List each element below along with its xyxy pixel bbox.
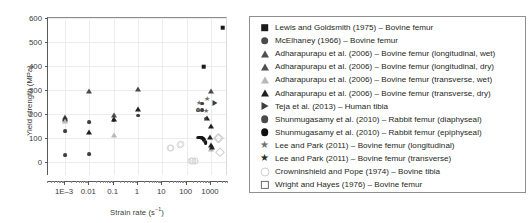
x-gridline [114, 18, 115, 175]
x-minor-tick [217, 181, 218, 183]
y-axis-label: Yield strength (MPa) [25, 31, 34, 171]
legend-item[interactable]: Wright and Hayes (1976) – Bovine femur [258, 178, 525, 191]
x-axis-label: Strain rate (s−1) [47, 206, 227, 217]
data-point [63, 130, 67, 134]
x-gridline [187, 18, 188, 175]
x-tick-label: 10 [157, 187, 166, 196]
data-point [204, 117, 208, 121]
y-gridline [48, 18, 226, 19]
x-minor-tick [96, 181, 97, 183]
x-minor-tick [227, 181, 228, 183]
x-tick-label: 100 [179, 187, 192, 196]
x-minor-tick [103, 181, 104, 183]
x-minor-tick [185, 181, 186, 183]
x-minor-tick [154, 181, 155, 183]
legend-item[interactable]: Lewis and Goldsmith (1975) – Bovine femu… [258, 21, 525, 34]
y-gridline [48, 66, 226, 67]
x-gridline [65, 18, 66, 175]
legend-marker-triangle-light [258, 73, 271, 86]
data-point [111, 132, 117, 137]
legend-item-label: Shunmugasamy et al. (2010) – Rabbit femu… [275, 115, 482, 124]
legend-item-label: Wright and Hayes (1976) – Bovine femur [275, 180, 422, 189]
y-tick-label: 300 [29, 85, 42, 94]
data-point [87, 153, 91, 157]
legend-item[interactable]: Adharapurapu et al. (2006) – Bovine femu… [258, 73, 525, 86]
x-minor-tick [105, 181, 106, 183]
data-point [192, 158, 199, 165]
x-minor-tick [79, 181, 80, 183]
x-tick-mark [137, 181, 138, 185]
x-minor-tick [71, 181, 72, 183]
data-point [220, 25, 225, 30]
x-minor-tick [209, 181, 210, 183]
legend-item[interactable]: Shunmugasamy et al. (2010) – Rabbit femu… [258, 113, 525, 126]
y-tick-label: 400 [29, 61, 42, 70]
legend-item[interactable]: Crowninshield and Pope (1974) – Bovine t… [258, 165, 525, 178]
y-tick-mark [45, 66, 49, 67]
x-gridline [138, 18, 139, 175]
legend-item[interactable]: Shunmugasamy et al. (2010) – Rabbit femu… [258, 126, 525, 139]
x-minor-tick [100, 181, 101, 183]
data-point [135, 107, 141, 112]
legend-item[interactable]: ★Lee and Park (2011) – Bovine femur (tra… [258, 152, 525, 165]
legend-item-label: Shunmugasamy et al. (2010) – Rabbit femu… [275, 128, 482, 137]
data-point: ★ [202, 106, 209, 113]
data-point: ★ [196, 98, 203, 105]
x-tick-mark [161, 181, 162, 185]
x-minor-tick [176, 181, 177, 183]
legend-marker-star-light: ★ [258, 139, 271, 152]
legend-marker-open-diamond [258, 178, 271, 191]
legend-marker-circle-dark [258, 126, 271, 139]
legend-item[interactable]: ★Lee and Park (2011) – Bovine femur (lon… [258, 139, 525, 152]
x-minor-tick [169, 181, 170, 183]
chart-figure-root: Yield strength (MPa) Strain rate (s−1) 0… [0, 0, 532, 223]
x-tick-mark [210, 181, 211, 185]
data-point [86, 129, 92, 134]
data-point [208, 124, 214, 129]
y-tick-mark [45, 90, 49, 91]
y-tick-mark [45, 18, 49, 19]
x-minor-tick [54, 181, 55, 183]
x-minor-tick [225, 181, 226, 183]
legend-item-label: Adharapurapu et al. (2006) – Bovine femu… [275, 75, 492, 84]
legend-marker-circle-grey [258, 113, 271, 126]
x-minor-tick [203, 181, 204, 183]
data-point [136, 114, 140, 118]
data-point [87, 120, 91, 124]
legend-item-label: Teja et al. (2013) – Human tibia [275, 102, 388, 111]
legend-item-label: Lee and Park (2011) – Bovine femur (long… [275, 141, 454, 150]
x-minor-tick [144, 181, 145, 183]
x-minor-tick [222, 181, 223, 183]
chart-legend: Lewis and Goldsmith (1975) – Bovine femu… [249, 16, 526, 193]
legend-item[interactable]: Teja et al. (2013) – Human tibia [258, 100, 525, 113]
y-tick-label: 200 [29, 109, 42, 118]
legend-marker-triangle-right [258, 100, 271, 113]
x-minor-tick [81, 181, 82, 183]
data-point [204, 141, 208, 145]
x-minor-tick [124, 181, 125, 183]
legend-item[interactable]: Adharapurapu et al. (2006) – Bovine femu… [258, 47, 525, 60]
x-tick-label: 1000 [201, 187, 218, 196]
x-minor-tick [63, 181, 64, 183]
x-tick-mark [186, 181, 187, 185]
legend-marker-star-dark: ★ [258, 152, 271, 165]
x-minor-tick [57, 181, 58, 183]
legend-item-label: Adharapurapu et al. (2006) – Bovine femu… [275, 62, 494, 71]
x-tick-label: 1 [135, 187, 139, 196]
legend-item-label: McElhaney (1966) – Bovine femur [275, 36, 398, 45]
y-gridline [48, 162, 226, 163]
data-point [216, 147, 225, 156]
x-minor-tick [178, 181, 179, 183]
legend-item[interactable]: McElhaney (1966) – Bovine femur [258, 34, 525, 47]
y-tick-label: 500 [29, 37, 42, 46]
x-minor-tick [127, 181, 128, 183]
y-gridline [48, 42, 226, 43]
legend-item[interactable]: Adharapurapu et al. (2006) – Bovine femu… [258, 86, 525, 99]
x-minor-tick [136, 181, 137, 183]
data-point [207, 134, 213, 139]
legend-item-label: Lee and Park (2011) – Bovine femur (tran… [275, 154, 451, 163]
x-axis-label-base: Strain rate (s [110, 208, 155, 217]
legend-item[interactable]: Adharapurapu et al. (2006) – Bovine femu… [258, 60, 525, 73]
x-minor-tick [152, 181, 153, 183]
x-minor-tick [197, 181, 198, 183]
